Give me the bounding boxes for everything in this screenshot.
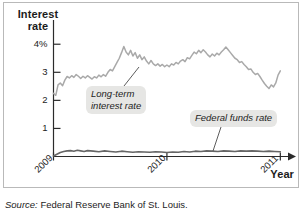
annotation-long-term-line2: interest rate [91, 100, 141, 111]
annotation-leader-federal-funds [213, 124, 222, 151]
source-note-text: Federal Reserve Bank of St. Louis. [38, 199, 188, 210]
source-note: Source: Federal Reserve Bank of St. Loui… [5, 199, 188, 210]
figure-container: Interest rate Year Long-term interest ra… [0, 0, 302, 217]
y-axis-tick-label: 2 [20, 94, 48, 105]
annotation-long-term-line1: Long-term [91, 88, 134, 99]
annotation-federal-funds-rate: Federal funds rate [190, 110, 277, 127]
chart-plot [0, 0, 302, 217]
x-axis-arrowhead [288, 153, 296, 161]
y-axis-tick-label: 3 [20, 66, 48, 77]
annotation-long-term-interest-rate: Long-term interest rate [86, 86, 146, 114]
source-note-label: Source: [5, 199, 38, 210]
y-axis-tick-label: 1 [20, 122, 48, 133]
y-axis-tick-label: 4% [20, 38, 48, 49]
annotation-leader-long-term [124, 67, 139, 86]
